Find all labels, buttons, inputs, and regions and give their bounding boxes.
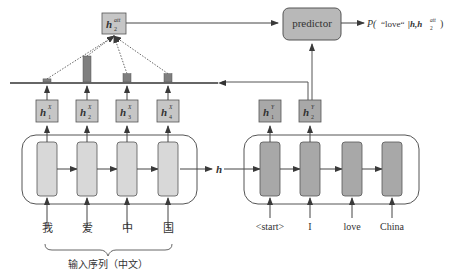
svg-text:h: h [303,106,309,118]
decoder-cell [342,142,362,196]
attention-weight-bar [164,74,172,82]
attention-weight-line [47,36,114,79]
svg-text:P(: P( [366,18,377,30]
svg-text:h: h [120,106,126,118]
svg-text:): ) [440,18,443,30]
attention-weight-line [114,36,168,74]
decoder-hidden-state-2: hY2 [299,100,321,122]
encoder-input-token: 我 [42,222,53,235]
encoder-cell [158,142,178,196]
svg-text:X: X [87,104,92,110]
svg-text:X: X [168,104,173,110]
encoder-hidden-state-3: hX3 [116,100,138,122]
svg-text:X: X [47,104,52,110]
svg-text:h: h [161,106,167,118]
encoder-cell [117,142,137,196]
svg-text:1: 1 [271,114,274,120]
attention-weight-bar [123,74,131,82]
decoder-query-line [222,82,308,100]
decoder-input-token: <start> [256,221,285,232]
decoder-input-token: I [308,221,311,232]
svg-text:2: 2 [311,114,314,120]
attention-weight-line [114,36,127,74]
decoder-input-token: China [380,221,404,232]
svg-text:1: 1 [48,114,51,120]
encoder-hidden-state-2: hX2 [76,100,98,122]
encoder-input-token: 爱 [82,222,93,235]
encoder-input-token: 中 [122,222,133,235]
svg-text:|h,h: |h,h [408,19,422,29]
svg-text:h: h [263,106,269,118]
input-brace [45,244,172,256]
query-arrowhead [218,80,226,86]
encoder-input-token: 国 [163,222,174,235]
svg-text:X: X [127,104,132,110]
output-probability: P( “love“ |h,h att 2 ) [366,17,443,31]
svg-text:h: h [106,18,112,30]
encoder-cell [37,142,57,196]
decoder-cell [300,142,320,196]
input-sequence-label: 输入序列（中文） [68,258,148,270]
decoder-cell [382,142,402,196]
context-vector-box: h att 2 [102,13,126,34]
decoder-hidden-state-1: hY1 [259,100,281,122]
svg-text:2: 2 [430,25,433,31]
predictor-label: predictor [292,17,332,29]
attention-weight-line [87,36,114,56]
attention-diagram: hX1hX2hX3hX4 h hY1hY2 h att 2 predictor … [0,0,449,274]
svg-text:3: 3 [128,114,131,120]
encoder-cell [77,142,97,196]
attention-weight-bar [83,56,91,82]
svg-text:att: att [114,17,121,23]
encoder-hidden-state-1: hX1 [36,100,58,122]
svg-text:4: 4 [169,114,172,120]
attention-weight-bar [43,79,51,82]
svg-text:h: h [80,106,86,118]
svg-text:2: 2 [114,26,117,32]
svg-text:att: att [430,17,436,23]
encoder-output-label: h [216,163,222,175]
decoder-input-token: love [343,221,361,232]
decoder-cell [260,142,280,196]
svg-text:“love“: “love“ [381,19,404,29]
encoder-hidden-state-4: hX4 [157,100,179,122]
svg-text:h: h [40,106,46,118]
svg-text:2: 2 [88,114,91,120]
